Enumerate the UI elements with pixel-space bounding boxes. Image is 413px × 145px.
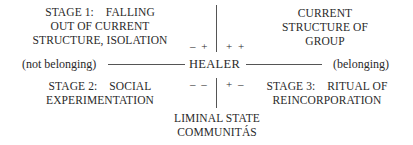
not-belonging-label: (not belonging) xyxy=(22,57,96,71)
vertical-axis-top xyxy=(216,5,217,52)
liminal-state-label: LIMINAL STATE COMMUNITÁS xyxy=(157,111,277,139)
stage-3-line-1: STAGE 3: RITUAL OF xyxy=(262,79,392,93)
sign-bottom-right: + – xyxy=(226,78,245,90)
current-structure-line-2: STRUCTURE OF xyxy=(265,20,385,34)
stage-3-label: STAGE 3: RITUAL OF REINCORPORATION xyxy=(262,79,392,107)
horizontal-axis-left xyxy=(108,64,185,65)
horizontal-axis-right xyxy=(246,64,322,65)
liminal-state-line-1: LIMINAL STATE xyxy=(157,111,277,125)
sign-top-left: – + xyxy=(190,40,209,52)
stage-2-label: STAGE 2: SOCIAL EXPERIMENTATION xyxy=(35,79,165,107)
current-structure-line-1: CURRENT xyxy=(265,6,385,20)
stage-1-line-1: STAGE 1: FALLING xyxy=(30,5,170,19)
current-structure-line-3: GROUP xyxy=(265,34,385,48)
sign-bottom-left: – – xyxy=(190,78,208,90)
belonging-label: (belonging) xyxy=(333,57,389,71)
liminal-state-line-2: COMMUNITÁS xyxy=(157,125,277,139)
stage-2-line-1: STAGE 2: SOCIAL xyxy=(35,79,165,93)
stage-3-line-2: REINCORPORATION xyxy=(262,93,392,107)
current-structure-label: CURRENT STRUCTURE OF GROUP xyxy=(265,6,385,48)
sign-top-right: + + xyxy=(226,40,246,52)
healer-label: HEALER xyxy=(189,57,240,71)
stage-2-line-2: EXPERIMENTATION xyxy=(35,93,165,107)
stage-1-line-2: OUT OF CURRENT xyxy=(30,19,170,33)
stage-1-label: STAGE 1: FALLING OUT OF CURRENT STRUCTUR… xyxy=(30,5,170,47)
vertical-axis-bottom xyxy=(216,78,217,108)
stage-1-line-3: STRUCTURE, ISOLATION xyxy=(30,33,170,47)
